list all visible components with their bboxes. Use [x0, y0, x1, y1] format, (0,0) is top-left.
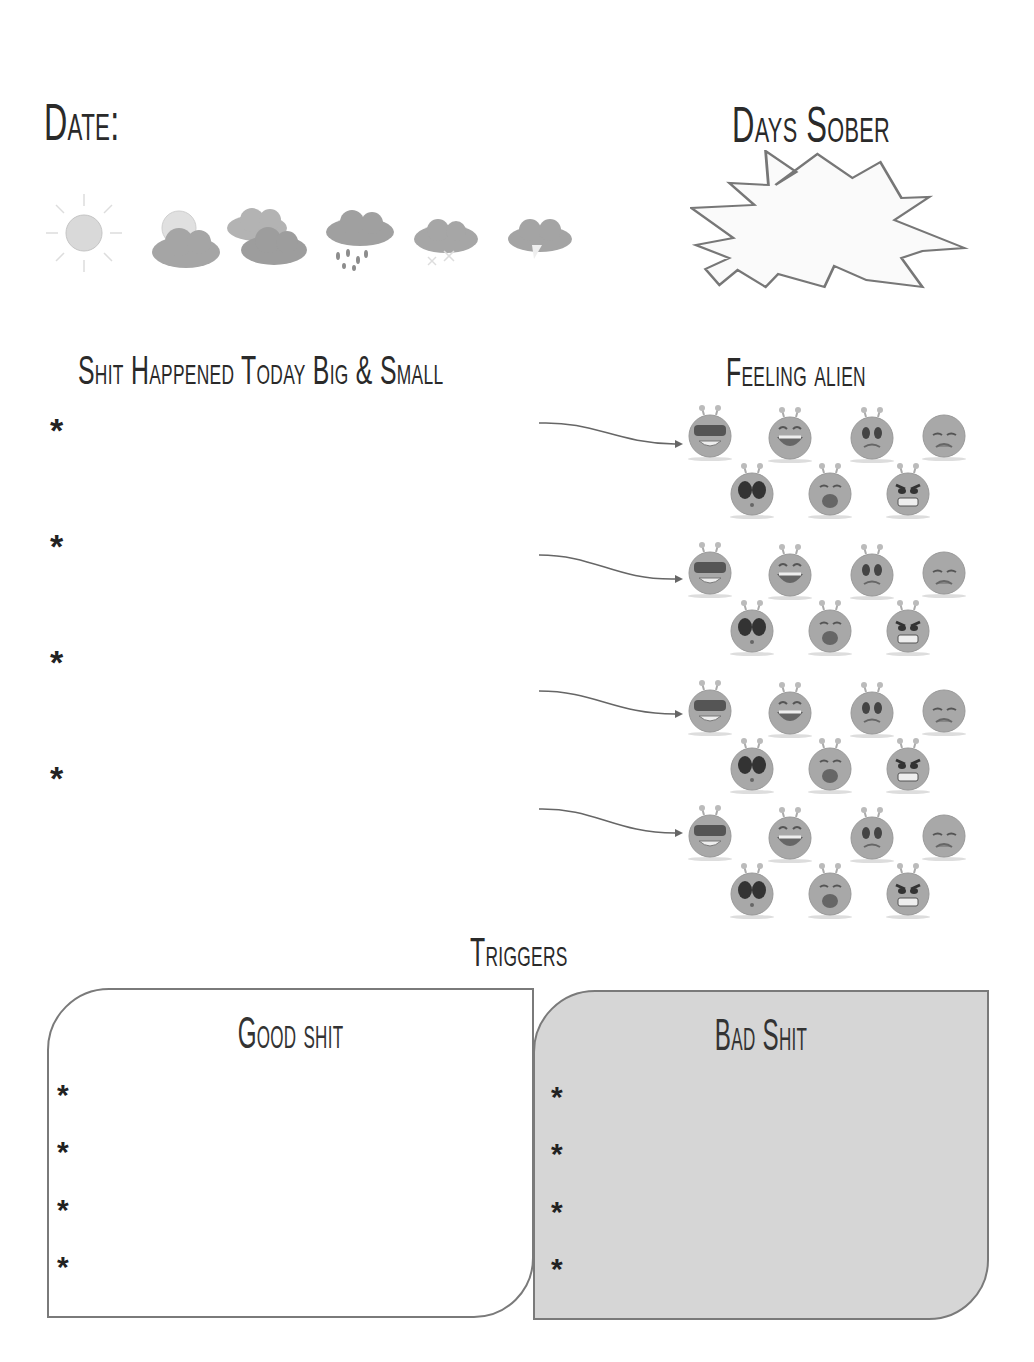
crying-alien-icon[interactable]: [804, 863, 856, 915]
feeling-title: Feeling alien: [726, 350, 866, 395]
worried-alien-icon[interactable]: [846, 807, 898, 859]
mood-selector-1: [680, 405, 980, 525]
laughing-alien-icon[interactable]: [764, 544, 816, 596]
days-sober-starburst[interactable]: [690, 150, 980, 305]
mood-selector-3: [680, 680, 980, 800]
bad-triggers-box[interactable]: Bad Shit * * * *: [533, 990, 989, 1320]
event-bullet-2: *: [50, 529, 63, 563]
days-sober-label: Days Sober: [732, 96, 890, 154]
cool-alien-icon[interactable]: [684, 805, 736, 857]
sad-alien-icon[interactable]: [918, 805, 970, 857]
good-bullet-1: *: [57, 1080, 69, 1110]
laughing-alien-icon[interactable]: [764, 807, 816, 859]
bad-triggers-title: Bad Shit: [637, 1010, 886, 1060]
good-bullet-3: *: [57, 1195, 69, 1225]
shocked-alien-icon[interactable]: [726, 600, 778, 652]
event-bullet-3: *: [50, 645, 63, 679]
cool-alien-icon[interactable]: [684, 680, 736, 732]
laughing-alien-icon[interactable]: [764, 407, 816, 459]
bad-bullet-3: *: [551, 1197, 563, 1227]
good-triggers-title: Good shit: [158, 1008, 424, 1058]
sad-alien-icon[interactable]: [918, 405, 970, 457]
bad-bullet-4: *: [551, 1254, 563, 1284]
angry-alien-icon[interactable]: [882, 738, 934, 790]
crying-alien-icon[interactable]: [804, 463, 856, 515]
event-bullet-1: *: [50, 413, 63, 447]
mood-selector-4: [680, 805, 980, 925]
date-label: Date:: [44, 92, 120, 152]
crying-alien-icon[interactable]: [804, 600, 856, 652]
angry-alien-icon[interactable]: [882, 863, 934, 915]
sad-alien-icon[interactable]: [918, 680, 970, 732]
worried-alien-icon[interactable]: [846, 682, 898, 734]
cool-alien-icon[interactable]: [684, 542, 736, 594]
partly-cloudy-icon[interactable]: [144, 190, 234, 275]
event-bullet-4: *: [50, 761, 63, 795]
thunderstorm-icon[interactable]: [502, 215, 582, 275]
snow-icon[interactable]: [408, 215, 488, 275]
laughing-alien-icon[interactable]: [764, 682, 816, 734]
shocked-alien-icon[interactable]: [726, 463, 778, 515]
shocked-alien-icon[interactable]: [726, 738, 778, 790]
arrow-icon: [535, 418, 685, 458]
crying-alien-icon[interactable]: [804, 738, 856, 790]
rain-icon[interactable]: [322, 208, 402, 278]
arrow-icon: [535, 805, 685, 845]
cloudy-icon[interactable]: [222, 200, 312, 275]
arrow-icon: [535, 688, 685, 728]
triggers-title: Triggers: [470, 930, 568, 975]
worried-alien-icon[interactable]: [846, 407, 898, 459]
weather-selector: [44, 190, 604, 280]
sad-alien-icon[interactable]: [918, 542, 970, 594]
good-bullet-2: *: [57, 1137, 69, 1167]
worried-alien-icon[interactable]: [846, 544, 898, 596]
good-triggers-box[interactable]: Good shit * * * *: [47, 988, 534, 1318]
events-title: Shit Happened Today Big & Small: [78, 348, 443, 393]
angry-alien-icon[interactable]: [882, 463, 934, 515]
shocked-alien-icon[interactable]: [726, 863, 778, 915]
bad-bullet-1: *: [551, 1082, 563, 1112]
angry-alien-icon[interactable]: [882, 600, 934, 652]
arrow-icon: [535, 552, 685, 592]
bad-bullet-2: *: [551, 1139, 563, 1169]
cool-alien-icon[interactable]: [684, 405, 736, 457]
good-bullet-4: *: [57, 1252, 69, 1282]
sunny-icon[interactable]: [44, 190, 124, 275]
mood-selector-2: [680, 542, 980, 662]
